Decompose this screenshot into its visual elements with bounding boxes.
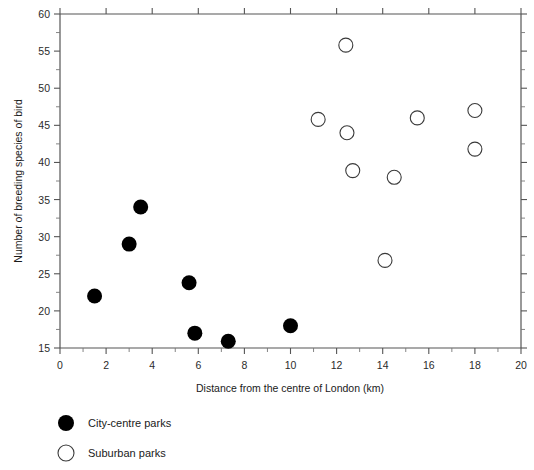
y-tick-label: 50 bbox=[38, 82, 50, 94]
x-tick-label: 6 bbox=[195, 359, 201, 371]
x-tick-label: 2 bbox=[103, 359, 109, 371]
legend-label-suburban-parks: Suburban parks bbox=[88, 447, 166, 459]
data-point bbox=[378, 253, 392, 267]
data-point bbox=[187, 326, 202, 341]
data-point bbox=[339, 38, 353, 52]
x-tick-label: 4 bbox=[149, 359, 155, 371]
data-point bbox=[468, 103, 482, 117]
data-point bbox=[182, 275, 197, 290]
y-tick-label: 45 bbox=[38, 119, 50, 131]
y-tick-label: 15 bbox=[38, 342, 50, 354]
x-tick-label: 0 bbox=[57, 359, 63, 371]
x-tick-label: 14 bbox=[377, 359, 389, 371]
data-point bbox=[122, 237, 137, 252]
data-point bbox=[311, 112, 325, 126]
data-point bbox=[340, 126, 354, 140]
chart-background bbox=[0, 0, 534, 470]
y-axis-title: Number of breeding species of bird bbox=[12, 99, 24, 263]
data-point bbox=[221, 334, 236, 349]
legend-marker-open-circle-icon bbox=[58, 445, 74, 461]
x-axis-title: Distance from the centre of London (km) bbox=[196, 382, 384, 394]
data-point bbox=[387, 170, 401, 184]
data-point bbox=[346, 164, 360, 178]
legend-marker-filled-circle-icon bbox=[58, 415, 74, 431]
data-point bbox=[283, 318, 298, 333]
x-tick-label: 8 bbox=[241, 359, 247, 371]
x-tick-label: 12 bbox=[331, 359, 343, 371]
y-tick-label: 60 bbox=[38, 8, 50, 20]
scatter-chart: 0246810121416182015202530354045505560 Di… bbox=[0, 0, 534, 470]
legend-label-city-centre-parks: City-centre parks bbox=[88, 417, 172, 429]
y-tick-label: 30 bbox=[38, 231, 50, 243]
x-tick-label: 20 bbox=[515, 359, 527, 371]
data-point bbox=[133, 199, 148, 214]
y-tick-label: 25 bbox=[38, 268, 50, 280]
x-tick-label: 16 bbox=[423, 359, 435, 371]
data-point bbox=[87, 289, 102, 304]
x-tick-label: 18 bbox=[469, 359, 481, 371]
y-tick-label: 55 bbox=[38, 45, 50, 57]
y-tick-label: 20 bbox=[38, 305, 50, 317]
x-tick-label: 10 bbox=[285, 359, 297, 371]
data-point bbox=[410, 111, 424, 125]
y-tick-label: 35 bbox=[38, 194, 50, 206]
y-tick-label: 40 bbox=[38, 156, 50, 168]
data-point bbox=[468, 142, 482, 156]
